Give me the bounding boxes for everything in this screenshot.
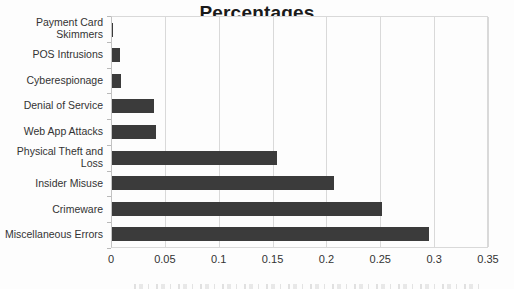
bar-8 [112,227,429,241]
bar-row [112,119,487,145]
bar-row [112,222,487,248]
axis-tick [107,93,111,94]
category-label: Payment Card Skimmers [0,16,107,42]
bar-4 [112,125,156,139]
category-label: Insider Misuse [0,171,107,197]
category-axis-labels: Payment Card SkimmersPOS IntrusionsCyber… [0,16,107,248]
category-label: Denial of Service [0,93,107,119]
bar-row [112,145,487,171]
bar-6 [112,176,334,190]
value-axis-labels: 00.050.10.150.20.250.30.35 [0,253,514,267]
bar-row [112,196,487,222]
bar-row [112,68,487,94]
x-tick-label: 0.1 [211,253,226,265]
cutoff-caption-fragment [134,284,484,289]
axis-tick [107,68,111,69]
chart-canvas: Percentages Payment Card SkimmersPOS Int… [0,0,514,289]
axis-tick [107,16,111,17]
x-tick-label: 0.2 [319,253,334,265]
gridline [488,17,489,247]
bar-2 [112,74,121,88]
bar-row [112,17,487,43]
bar-1 [112,48,120,62]
category-label: Cyberespionage [0,68,107,94]
x-tick-label: 0.15 [262,253,283,265]
axis-tick [107,248,111,249]
category-label: Crimeware [0,196,107,222]
category-label: Web App Attacks [0,119,107,145]
x-tick-label: 0.35 [477,253,498,265]
bar-row [112,43,487,69]
x-tick-label: 0.05 [154,253,175,265]
axis-tick [107,196,111,197]
bar-5 [112,151,277,165]
category-label: POS Intrusions [0,42,107,68]
axis-tick [107,222,111,223]
category-label: Physical Theft and Loss [0,145,107,171]
x-tick-label: 0.3 [426,253,441,265]
bar-3 [112,99,154,113]
axis-tick [107,119,111,120]
plot-area [111,16,488,248]
axis-tick [107,42,111,43]
bar-rows [112,17,487,247]
bar-7 [112,202,382,216]
bar-0 [112,23,113,37]
x-tick-label: 0 [108,253,114,265]
axis-tick [107,145,111,146]
axis-tick [107,171,111,172]
category-label: Miscellaneous Errors [0,222,107,248]
x-tick-label: 0.25 [370,253,391,265]
bar-row [112,94,487,120]
bar-row [112,170,487,196]
